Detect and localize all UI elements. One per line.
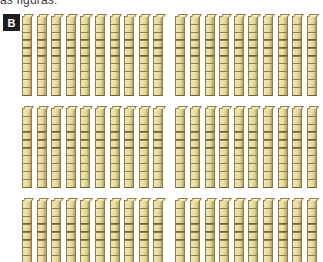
unit-cube bbox=[307, 179, 317, 188]
ten-rod bbox=[234, 108, 244, 187]
unit-cube bbox=[278, 87, 288, 96]
unit-cube bbox=[263, 255, 273, 262]
ten-rod bbox=[51, 16, 61, 95]
unit-cube bbox=[22, 255, 32, 262]
unit-cube bbox=[190, 255, 200, 262]
unit-cube bbox=[51, 255, 61, 262]
ten-rod bbox=[80, 108, 90, 187]
ten-rod bbox=[110, 108, 120, 187]
unit-cube bbox=[153, 87, 163, 96]
item-letter-badge: B bbox=[3, 14, 20, 31]
ten-rod bbox=[175, 108, 185, 187]
unit-cube bbox=[292, 87, 302, 96]
unit-cube bbox=[22, 87, 32, 96]
unit-cube bbox=[22, 179, 32, 188]
unit-cube bbox=[175, 255, 185, 262]
unit-cube bbox=[139, 87, 149, 96]
unit-cube bbox=[110, 87, 120, 96]
unit-cube bbox=[248, 255, 258, 262]
ten-rod bbox=[234, 16, 244, 95]
ten-rod bbox=[153, 200, 163, 262]
unit-cube bbox=[175, 179, 185, 188]
unit-cube bbox=[263, 87, 273, 96]
unit-cube bbox=[205, 87, 215, 96]
ten-rod bbox=[278, 200, 288, 262]
unit-cube bbox=[190, 87, 200, 96]
unit-cube bbox=[292, 255, 302, 262]
unit-cube bbox=[51, 179, 61, 188]
unit-cube bbox=[80, 255, 90, 262]
unit-cube bbox=[219, 255, 229, 262]
ten-rod bbox=[263, 16, 273, 95]
rod-row bbox=[22, 108, 323, 198]
unit-cube bbox=[124, 255, 134, 262]
ten-rod bbox=[153, 16, 163, 95]
ten-rod bbox=[248, 16, 258, 95]
ten-rod bbox=[190, 16, 200, 95]
ten-rod bbox=[22, 16, 32, 95]
unit-cube bbox=[292, 179, 302, 188]
ten-rod bbox=[234, 200, 244, 262]
ten-rod bbox=[292, 108, 302, 187]
unit-cube bbox=[95, 255, 105, 262]
unit-cube bbox=[124, 87, 134, 96]
ten-rod bbox=[110, 16, 120, 95]
unit-cube bbox=[66, 87, 76, 96]
unit-cube bbox=[205, 255, 215, 262]
ten-rod bbox=[175, 16, 185, 95]
unit-cube bbox=[190, 179, 200, 188]
ten-rod bbox=[124, 16, 134, 95]
unit-cube bbox=[95, 87, 105, 96]
unit-cube bbox=[37, 255, 47, 262]
ten-rod bbox=[307, 108, 317, 187]
ten-rod bbox=[124, 108, 134, 187]
ten-rod bbox=[66, 108, 76, 187]
ten-rod bbox=[190, 108, 200, 187]
unit-cube bbox=[37, 179, 47, 188]
unit-cube bbox=[234, 255, 244, 262]
unit-cube bbox=[110, 255, 120, 262]
ten-rod bbox=[263, 200, 273, 262]
unit-cube bbox=[307, 255, 317, 262]
ten-rod bbox=[219, 108, 229, 187]
ten-rod bbox=[307, 16, 317, 95]
rod-group bbox=[175, 108, 316, 187]
ten-rod bbox=[190, 200, 200, 262]
ten-rod bbox=[292, 200, 302, 262]
unit-cube bbox=[80, 87, 90, 96]
rod-row bbox=[22, 16, 323, 106]
ten-rod bbox=[66, 16, 76, 95]
ten-rod bbox=[205, 108, 215, 187]
ten-rod bbox=[153, 108, 163, 187]
unit-cube bbox=[124, 179, 134, 188]
ten-rod bbox=[205, 16, 215, 95]
base-ten-blocks-area bbox=[22, 16, 323, 262]
worksheet-page: as figuras: B bbox=[0, 0, 323, 262]
rod-group bbox=[22, 108, 163, 187]
rod-group bbox=[175, 200, 316, 262]
unit-cube bbox=[153, 255, 163, 262]
ten-rod bbox=[95, 16, 105, 95]
rod-group bbox=[22, 200, 163, 262]
ten-rod bbox=[51, 200, 61, 262]
unit-cube bbox=[219, 87, 229, 96]
unit-cube bbox=[153, 179, 163, 188]
unit-cube bbox=[248, 87, 258, 96]
unit-cube bbox=[37, 87, 47, 96]
ten-rod bbox=[278, 108, 288, 187]
ten-rod bbox=[205, 200, 215, 262]
unit-cube bbox=[278, 179, 288, 188]
ten-rod bbox=[248, 108, 258, 187]
ten-rod bbox=[248, 200, 258, 262]
ten-rod bbox=[22, 200, 32, 262]
unit-cube bbox=[263, 179, 273, 188]
unit-cube bbox=[51, 87, 61, 96]
prompt-text: as figuras: bbox=[0, 0, 58, 7]
unit-cube bbox=[66, 255, 76, 262]
ten-rod bbox=[139, 108, 149, 187]
unit-cube bbox=[307, 87, 317, 96]
unit-cube bbox=[110, 179, 120, 188]
unit-cube bbox=[234, 179, 244, 188]
ten-rod bbox=[139, 200, 149, 262]
ten-rod bbox=[95, 200, 105, 262]
